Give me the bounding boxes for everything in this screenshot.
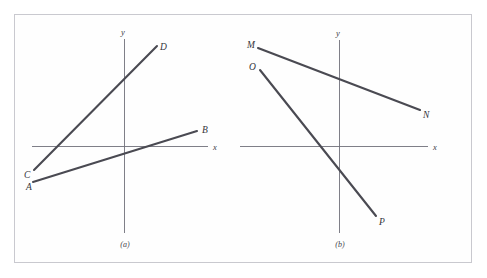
panel-b-point-label-M: M [247,41,255,51]
figure-root: y x D B C A (a) y x M O N P (b) [0,0,487,278]
panel-b-point-label-N: N [423,111,429,121]
panel-b-line-OP [260,70,376,216]
panel-b-caption: (b) [332,241,348,249]
panel-a-caption: (a) [117,241,133,249]
panel-b-point-label-O: O [249,63,256,73]
panel-a-line-AB [33,131,197,182]
panel-a-line-CD [34,46,157,170]
panel-a-point-label-C: C [24,171,30,181]
panel-a-point-label-A: A [26,183,32,193]
panel-a-point-label-B: B [202,126,208,136]
panel-b-axes [240,40,428,233]
panel-b-point-label-P: P [379,218,385,228]
panel-b-y-axis-label: y [336,29,340,38]
panel-a-x-axis-label: x [213,143,217,152]
panel-a-point-label-D: D [160,43,167,53]
panel-b-x-axis-label: x [433,143,437,152]
panel-a-y-axis-label: y [121,28,125,37]
panel-a-lines [33,46,197,182]
panel-b-line-MN [258,48,420,110]
panel-b-lines [258,48,420,216]
figure-plot-area [0,0,487,278]
